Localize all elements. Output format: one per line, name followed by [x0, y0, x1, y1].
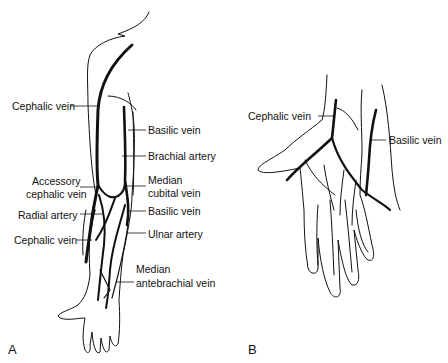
- label-median-antebrachial-vein-line1: Median: [136, 263, 170, 275]
- label-hand-basilic-vein: Basilic vein: [389, 134, 442, 146]
- label-radial-artery: Radial artery: [18, 209, 78, 221]
- label-hand-cephalic-vein: Cephalic vein: [248, 110, 311, 122]
- label-median-antebrachial-vein-line2: antebrachial vein: [136, 277, 215, 289]
- label-basilic-vein-upper: Basilic vein: [148, 124, 201, 136]
- label-accessory-cephalic-vein-line1: Accessory: [32, 175, 80, 187]
- label-ulnar-artery: Ulnar artery: [148, 228, 203, 240]
- label-median-cubital-vein-line2: cubital vein: [148, 187, 201, 199]
- label-accessory-cephalic-vein-line2: cephalic vein: [26, 188, 87, 200]
- label-brachial-artery: Brachial artery: [148, 150, 216, 162]
- panel-letter-b: B: [248, 342, 257, 357]
- label-median-cubital-vein-line1: Median: [148, 174, 182, 186]
- label-cephalic-vein-lower: Cephalic vein: [14, 234, 77, 246]
- panel-letter-a: A: [8, 342, 17, 357]
- vein-anatomy-figure: Cephalic vein Basilic vein Brachial arte…: [0, 0, 448, 363]
- label-basilic-vein-lower: Basilic vein: [148, 205, 201, 217]
- label-cephalic-vein-upper: Cephalic vein: [12, 100, 75, 112]
